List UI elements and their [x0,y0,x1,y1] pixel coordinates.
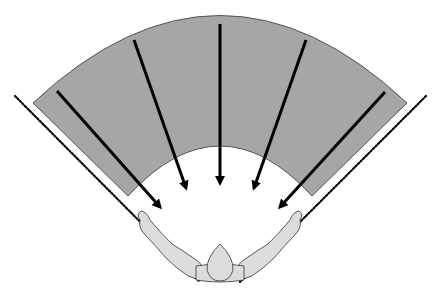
funnel-diagram [0,0,439,294]
head [207,244,233,281]
left-arm [138,211,204,279]
person-figure [138,211,302,282]
right-arm [236,211,302,279]
